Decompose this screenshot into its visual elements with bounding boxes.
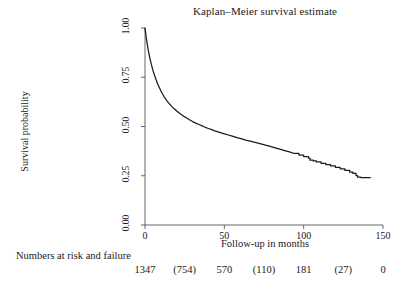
risk-table-caption: Numbers at risk and failure [16, 250, 131, 261]
x-axis-label: Follow-up in months [145, 238, 385, 249]
x-axis-ticks [145, 225, 383, 229]
y-axis-tick-label: 0.75 [121, 60, 131, 90]
risk-table-value: 0 [360, 264, 406, 275]
y-axis-tick-label: 1.00 [121, 11, 131, 41]
axes-group [141, 28, 383, 229]
y-axis-tick-label: 0.25 [121, 159, 131, 189]
kaplan-meier-figure: Kaplan–Meier survival estimate Survival … [0, 0, 409, 292]
y-axis-tick-label: 0.50 [121, 110, 131, 140]
survival-curve-group [145, 28, 370, 178]
y-axis-ticks [141, 28, 145, 225]
survival-curve-path [145, 28, 370, 178]
